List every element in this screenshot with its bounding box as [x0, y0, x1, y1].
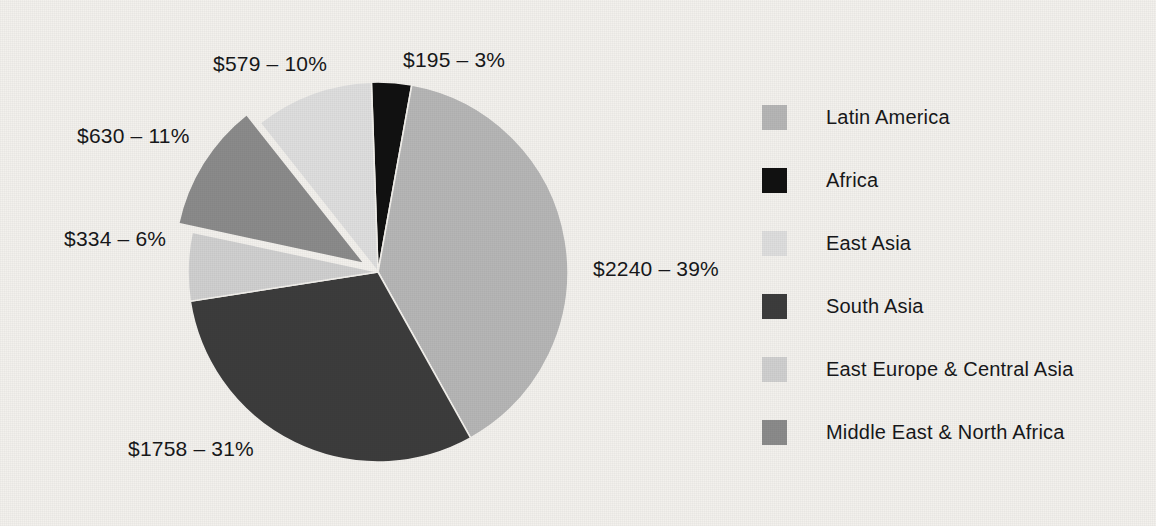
legend-item-middle-east-north-africa: Middle East & North Africa [762, 401, 1142, 464]
legend-label-middle-east-north-africa: Middle East & North Africa [826, 421, 1065, 444]
legend-label-africa: Africa [826, 169, 878, 192]
legend-item-latin-america: Latin America [762, 86, 1142, 149]
legend-swatch-east-europe-central-asia [762, 357, 787, 382]
legend-swatch-middle-east-north-africa [762, 420, 787, 445]
slice-label-middle-east: $630 – 11% [77, 124, 190, 148]
slice-label-africa: $195 – 3% [403, 48, 505, 72]
pie-chart: $195 – 3% $2240 – 39% $1758 – 31% $334 –… [0, 0, 1156, 526]
legend-item-east-europe-central-asia: East Europe & Central Asia [762, 338, 1142, 401]
legend-swatch-east-asia [762, 231, 787, 256]
slice-label-latin-america: $2240 – 39% [593, 257, 719, 281]
legend-swatch-south-asia [762, 294, 787, 319]
legend-label-east-europe-central-asia: East Europe & Central Asia [826, 358, 1074, 381]
pie-slices-group [179, 82, 568, 462]
legend-item-africa: Africa [762, 149, 1142, 212]
legend-item-east-asia: East Asia [762, 212, 1142, 275]
legend-swatch-africa [762, 168, 787, 193]
legend-item-south-asia: South Asia [762, 275, 1142, 338]
legend-label-latin-america: Latin America [826, 106, 950, 129]
slice-label-east-asia: $579 – 10% [213, 52, 327, 76]
legend-label-east-asia: East Asia [826, 232, 911, 255]
slice-label-south-asia: $1758 – 31% [128, 437, 254, 461]
legend-swatch-latin-america [762, 105, 787, 130]
legend-label-south-asia: South Asia [826, 295, 924, 318]
slice-label-east-europe: $334 – 6% [64, 227, 166, 251]
legend: Latin AmericaAfricaEast AsiaSouth AsiaEa… [762, 86, 1142, 464]
